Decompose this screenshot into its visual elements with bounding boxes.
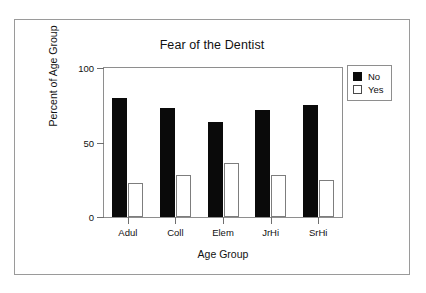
bar-elem-no [208,122,223,217]
x-axis-tick-label: Coll [167,227,183,238]
bar-coll-yes [176,175,191,217]
x-axis-title: Age Group [103,248,343,260]
bar-adul-no [112,98,127,217]
y-axis-tick-label: 100 [78,63,94,74]
bar-srhi-yes [319,180,334,217]
bar-adul-yes [128,183,143,217]
y-axis-title: Percent of Age Group [47,0,59,156]
x-axis-tick [318,217,319,224]
legend-label-no: No [368,72,380,82]
chart-title: Fear of the Dentist [15,38,409,52]
legend-swatch-no-icon [353,72,362,81]
legend-item-no[interactable]: No [353,70,384,83]
legend-swatch-yes-icon [353,85,362,94]
y-axis-tick-label: 0 [89,212,94,223]
bar-srhi-no [303,105,318,217]
x-axis-tick-label: JrHi [262,227,279,238]
y-axis-tick-label: 50 [83,137,94,148]
bar-jrhi-no [255,110,270,217]
figure-frame: Fear of the Dentist Percent of Age Group… [14,19,410,275]
x-axis-tick-label: Adul [118,227,137,238]
y-axis-tick [97,143,104,144]
x-axis-tick [128,217,129,224]
x-axis-tick-label: SrHi [309,227,327,238]
x-axis-tick-label: Elem [212,227,234,238]
legend-item-yes[interactable]: Yes [353,83,384,96]
legend: No Yes [347,65,392,101]
legend-label-yes: Yes [368,85,384,95]
bar-elem-yes [224,163,239,217]
y-axis-tick [97,217,104,218]
x-axis-tick [223,217,224,224]
y-axis-tick [97,68,104,69]
plot-area: 050100AdulCollElemJrHiSrHi [103,67,343,218]
x-axis-tick [271,217,272,224]
bar-jrhi-yes [271,175,286,217]
bar-coll-no [160,108,175,217]
x-axis-tick [175,217,176,224]
